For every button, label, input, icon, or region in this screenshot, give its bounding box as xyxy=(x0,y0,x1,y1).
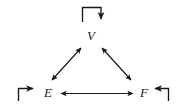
node-label-e: E xyxy=(44,86,52,99)
edge-v-f xyxy=(102,48,131,80)
node-label-f: F xyxy=(140,86,148,99)
diagram-canvas: V E F xyxy=(0,0,178,112)
self-loop-e xyxy=(19,89,34,102)
self-loop-v xyxy=(83,8,102,23)
self-loop-f xyxy=(155,89,169,102)
graph-edges-svg xyxy=(0,0,178,112)
edge-e-v xyxy=(52,48,81,80)
node-label-v: V xyxy=(87,29,95,42)
